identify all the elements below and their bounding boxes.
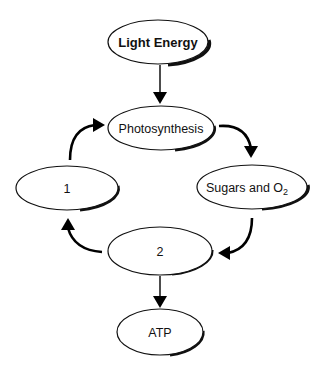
- arrow-2-to-1: [61, 218, 102, 252]
- node-label: Sugars and O2: [206, 181, 288, 197]
- node-atp: ATP: [117, 309, 203, 355]
- node-label: Light Energy: [118, 35, 198, 50]
- arrow-sugars-to-2: [218, 218, 252, 260]
- node-2: 2: [108, 227, 212, 275]
- arrow-light-to-photosynthesis: [153, 65, 167, 104]
- photosynthesis-cycle-diagram: Light Energy Photosynthesis Sugars and O…: [0, 0, 320, 372]
- node-photosynthesis: Photosynthesis: [108, 106, 214, 150]
- node-1: 1: [16, 166, 118, 210]
- arrow-1-to-photosynthesis: [70, 118, 105, 160]
- node-label: ATP: [148, 326, 171, 340]
- arrow-photosynthesis-to-sugars: [219, 126, 258, 158]
- node-label: Photosynthesis: [119, 122, 204, 136]
- node-label: 1: [64, 182, 71, 196]
- node-label: 2: [157, 245, 164, 259]
- arrow-2-to-atp: [153, 276, 167, 308]
- node-sugars-and-o2: Sugars and O2: [197, 165, 308, 209]
- node-light-energy: Light Energy: [108, 20, 210, 65]
